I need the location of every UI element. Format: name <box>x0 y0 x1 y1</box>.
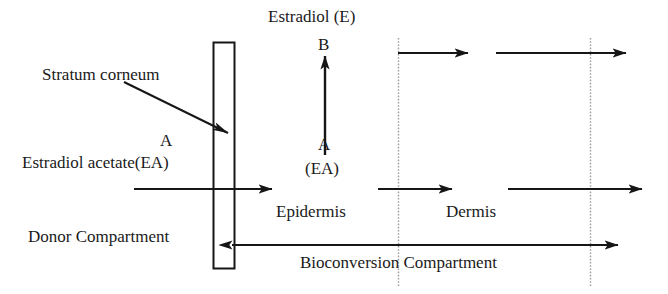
label-species-b: B <box>318 36 329 53</box>
label-donor-compartment: Donor Compartment <box>28 228 169 245</box>
label-dermis: Dermis <box>446 203 496 220</box>
label-ea-parenthetical: (EA) <box>305 160 339 177</box>
label-species-a-left: A <box>160 132 172 149</box>
label-epidermis: Epidermis <box>276 203 346 220</box>
diagram-canvas: Estradiol (E) B A (EA) Stratum corneum A… <box>0 0 668 294</box>
stratum-corneum-membrane <box>214 43 235 269</box>
label-estradiol-e: Estradiol (E) <box>268 8 355 25</box>
label-stratum-corneum: Stratum corneum <box>42 66 160 83</box>
label-species-a-center: A <box>318 136 330 153</box>
label-estradiol-acetate: Estradiol acetate(EA) <box>22 154 169 171</box>
label-bioconversion-compartment: Bioconversion Compartment <box>300 254 497 271</box>
diagram-vector-layer <box>0 0 668 294</box>
stratum-corneum-leader-arrow <box>124 82 228 133</box>
